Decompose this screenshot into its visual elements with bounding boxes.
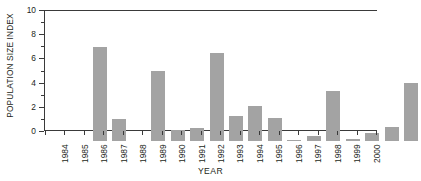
bar-slot (148, 22, 167, 141)
bar-slot (304, 22, 323, 141)
bar-slot (207, 22, 226, 141)
y-axis-title: POPULATION SIZE INDEX (3, 0, 17, 131)
x-axis-title: YEAR (44, 166, 377, 176)
x-tick (45, 131, 46, 135)
bar-slot (90, 22, 109, 141)
bar (385, 127, 399, 141)
bar-slot (187, 22, 206, 141)
bar-slot (324, 22, 343, 141)
bar (287, 140, 301, 141)
bar-slot (168, 22, 187, 141)
bar-slot (285, 22, 304, 141)
y-major-tick (39, 131, 44, 132)
bar (307, 136, 321, 141)
bar (190, 128, 204, 141)
bar (404, 83, 418, 141)
bar-slot (226, 22, 245, 141)
x-tick-label: 1984 (60, 133, 71, 163)
bar-slot (246, 22, 265, 141)
bar (210, 53, 224, 141)
bar-slot (382, 22, 401, 141)
bar-slot (363, 22, 382, 141)
bar-slot (402, 22, 421, 141)
x-tick (64, 131, 65, 135)
bar (248, 106, 262, 141)
x-tick (84, 131, 85, 135)
bar-slot (109, 22, 128, 141)
bar-slot (343, 22, 362, 141)
bar (346, 139, 360, 141)
bar-slot (265, 22, 284, 141)
bar (326, 91, 340, 141)
bars-layer (90, 22, 421, 141)
bar (93, 47, 107, 141)
bar (229, 116, 243, 141)
bar (112, 119, 126, 141)
bar (171, 130, 185, 141)
bar-slot (129, 22, 148, 141)
bar (365, 133, 379, 141)
bar (151, 71, 165, 141)
bar (268, 118, 282, 141)
plot-area (44, 10, 377, 131)
